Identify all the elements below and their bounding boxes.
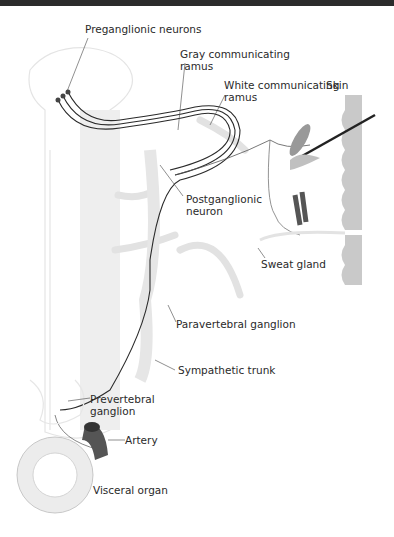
label-gray-ramus-1: Gray communicating — [180, 48, 290, 60]
label-gray-ramus-2: ramus — [180, 60, 213, 72]
skin-blood-vessel — [295, 192, 306, 225]
label-paravertebral-ganglion: Paravertebral ganglion — [176, 318, 296, 330]
label-white-ramus-1: White communicating — [224, 79, 339, 91]
label-artery: Artery — [125, 434, 158, 446]
prevertebral-ganglion-shape — [30, 380, 84, 424]
label-sympathetic-trunk: Sympathetic trunk — [178, 364, 275, 376]
label-white-ramus-2: ramus — [224, 91, 257, 103]
label-postganglionic-1: Postganglionic — [186, 193, 262, 205]
sympathetic-trunk-shape — [140, 150, 154, 380]
label-sweat-gland: Sweat gland — [261, 258, 326, 270]
nerve-roots — [115, 120, 245, 295]
label-postganglionic-2: neuron — [186, 205, 223, 217]
label-preganglionic-neurons: Preganglionic neurons — [85, 23, 201, 35]
sweat-duct — [260, 232, 345, 240]
neuron-bodies — [56, 90, 71, 103]
label-visceral-organ: Visceral organ — [93, 484, 168, 496]
label-prevertebral-2: ganglion — [90, 405, 135, 417]
hair-follicle — [290, 154, 320, 170]
label-prevertebral-1: Prevertebral — [90, 393, 155, 405]
label-skin: Skin — [326, 79, 348, 91]
